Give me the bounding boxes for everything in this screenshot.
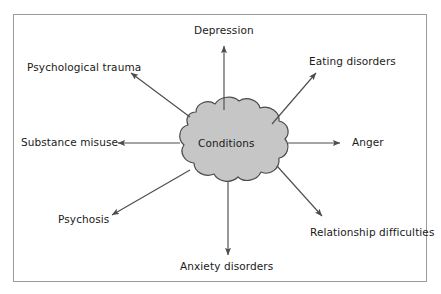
node-label-anger: Anger — [352, 137, 384, 149]
node-label-psychosis: Psychosis — [58, 214, 109, 226]
node-label-substance-misuse: Substance misuse — [21, 137, 118, 149]
arrow-relationship-difficulties — [277, 166, 322, 216]
node-label-psychological-trauma: Psychological trauma — [27, 62, 141, 74]
concept-diagram-figure: Conditions Depression Eating disorders A… — [0, 0, 441, 294]
node-label-depression: Depression — [194, 25, 254, 37]
node-label-eating-disorders: Eating disorders — [309, 56, 396, 68]
arrow-psychological-trauma — [131, 73, 190, 117]
center-node-label: Conditions — [198, 137, 255, 149]
node-label-relationship-difficulties: Relationship difficulties — [310, 227, 435, 239]
arrow-eating-disorders — [272, 73, 316, 124]
arrow-psychosis — [112, 170, 190, 215]
node-label-anxiety-disorders: Anxiety disorders — [180, 261, 273, 273]
